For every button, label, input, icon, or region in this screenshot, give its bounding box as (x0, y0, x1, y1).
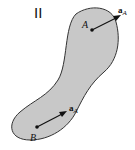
point-b-label: B (30, 132, 36, 143)
point-a-label: A (81, 19, 89, 30)
figure-label: II (34, 4, 42, 21)
rigid-body-shape (12, 8, 119, 140)
rigid-body-diagram: II A aA B aA (0, 0, 135, 150)
